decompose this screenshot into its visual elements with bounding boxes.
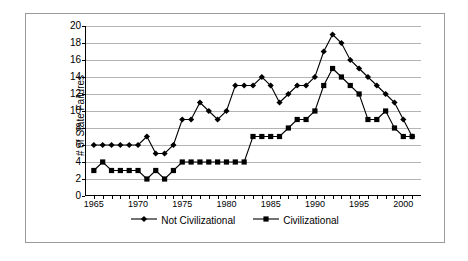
legend-label: Civilizational: [283, 215, 339, 226]
x-axis-tick-label: 1990: [305, 200, 325, 209]
square-marker-icon: [253, 214, 279, 226]
data-point-square: [383, 108, 388, 113]
x-axis-tick-mark: [112, 196, 113, 199]
data-point-square: [277, 134, 282, 139]
data-point-square: [153, 168, 158, 173]
y-axis-tick-label: 0: [75, 191, 81, 201]
data-point-square: [135, 168, 140, 173]
data-point-square: [321, 83, 326, 88]
data-point-diamond: [100, 142, 106, 148]
x-axis-tick-mark: [386, 196, 387, 199]
data-point-square: [339, 74, 344, 79]
data-point-square: [250, 134, 255, 139]
y-axis-tick-label: 10: [70, 106, 81, 116]
data-point-diamond: [400, 116, 406, 122]
data-point-diamond: [179, 116, 185, 122]
data-point-diamond: [321, 48, 327, 54]
data-point-square: [268, 134, 273, 139]
data-point-square: [206, 159, 211, 164]
data-point-square: [286, 125, 291, 130]
y-axis-tick-label: 12: [70, 89, 81, 99]
data-point-square: [330, 66, 335, 71]
data-point-square: [224, 159, 229, 164]
x-axis-tick-label: 1975: [172, 200, 192, 209]
data-point-diamond: [126, 142, 132, 148]
data-point-square: [180, 159, 185, 164]
x-axis-tick-mark: [341, 196, 342, 199]
x-axis-tick-label: 2000: [393, 200, 413, 209]
data-point-square: [91, 168, 96, 173]
data-point-diamond: [117, 142, 123, 148]
data-point-square: [127, 168, 132, 173]
x-axis-tick-mark: [333, 196, 334, 199]
y-axis-tick-label: 20: [70, 21, 81, 31]
data-point-square: [401, 134, 406, 139]
data-point-square: [303, 117, 308, 122]
data-point-diamond: [108, 142, 114, 148]
data-point-diamond: [188, 116, 194, 122]
data-point-diamond: [91, 142, 97, 148]
x-axis-tick-mark: [253, 196, 254, 199]
data-point-square: [242, 159, 247, 164]
data-point-square: [365, 117, 370, 122]
x-axis-tick-mark: [156, 196, 157, 199]
x-axis-tick-mark: [165, 196, 166, 199]
legend-item: Civilizational: [253, 214, 339, 226]
y-axis-tick-label: 8: [75, 123, 81, 133]
data-point-square: [295, 117, 300, 122]
data-point-square: [392, 125, 397, 130]
data-point-square: [410, 134, 415, 139]
data-point-square: [109, 168, 114, 173]
y-axis-tick-label: 14: [70, 72, 81, 82]
x-axis-tick-mark: [377, 196, 378, 199]
data-point-diamond: [141, 216, 147, 222]
data-point-square: [189, 159, 194, 164]
legend-item: Not Civilizational: [131, 214, 235, 226]
x-axis-tick-label: 1995: [349, 200, 369, 209]
data-point-square: [264, 216, 269, 221]
data-point-square: [374, 117, 379, 122]
x-axis-tick-mark: [244, 196, 245, 199]
data-point-square: [118, 168, 123, 173]
y-axis-tick-label: 16: [70, 55, 81, 65]
chart-frame: # of State Failures 02468101214161820 19…: [25, 13, 445, 243]
data-point-square: [348, 83, 353, 88]
x-axis-tick-label: 1965: [84, 200, 104, 209]
data-point-square: [100, 159, 105, 164]
chart-legend: Not CivilizationalCivilizational: [26, 214, 444, 226]
y-axis-tick-label: 2: [75, 174, 81, 184]
x-axis-tick-mark: [120, 196, 121, 199]
data-point-square: [312, 108, 317, 113]
chart-screenshot: # of State Failures 02468101214161820 19…: [0, 0, 468, 261]
data-point-square: [197, 159, 202, 164]
data-point-square: [162, 176, 167, 181]
data-point-square: [144, 176, 149, 181]
data-point-square: [171, 168, 176, 173]
x-axis-tick-mark: [209, 196, 210, 199]
data-point-diamond: [153, 150, 159, 156]
y-axis-tick-label: 18: [70, 38, 81, 48]
plot-area: 02468101214161820 1965197019751980198519…: [85, 26, 421, 196]
legend-label: Not Civilizational: [161, 215, 235, 226]
x-axis-tick-mark: [288, 196, 289, 199]
x-axis-tick-label: 1970: [128, 200, 148, 209]
data-point-square: [215, 159, 220, 164]
diamond-marker-icon: [131, 214, 157, 226]
x-axis-tick-mark: [297, 196, 298, 199]
data-point-square: [357, 91, 362, 96]
y-axis-tick-label: 6: [75, 140, 81, 150]
data-point-diamond: [241, 82, 247, 88]
data-point-square: [233, 159, 238, 164]
data-series-layer: [85, 26, 421, 196]
data-point-square: [259, 134, 264, 139]
data-point-diamond: [232, 82, 238, 88]
x-axis-tick-label: 1980: [216, 200, 236, 209]
x-axis-tick-label: 1985: [261, 200, 281, 209]
x-axis-tick-mark: [200, 196, 201, 199]
y-axis-tick-mark: [82, 196, 85, 197]
y-axis-tick-label: 4: [75, 157, 81, 167]
